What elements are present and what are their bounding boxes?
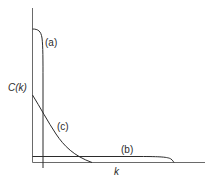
label-curve-c: (c) <box>57 121 69 132</box>
correlation-function-diagram: (a) (c) (b) C(k) k <box>0 0 213 181</box>
y-axis-label: C(k) <box>8 82 27 93</box>
axes <box>33 8 206 163</box>
x-axis-label: k <box>114 166 120 177</box>
label-curve-a: (a) <box>45 37 57 48</box>
label-curve-b: (b) <box>121 144 133 155</box>
curve-b <box>33 157 175 163</box>
